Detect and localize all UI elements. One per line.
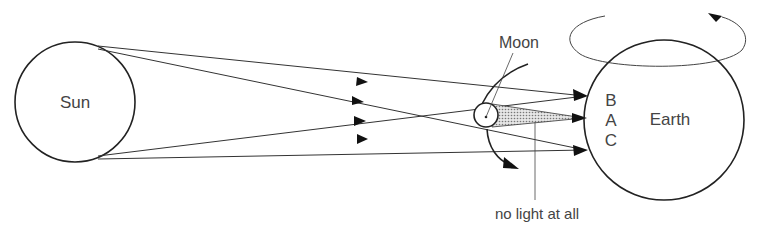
light-rays: [98, 46, 585, 159]
sun: Sun: [15, 42, 135, 162]
earth-rotation-ring: [570, 16, 746, 66]
sun-label: Sun: [60, 93, 90, 112]
earth-rotation-arrowhead: [708, 13, 722, 22]
point-b-label: B: [605, 91, 616, 110]
umbra-note: no light at all: [495, 205, 579, 222]
umbra-shadow: [492, 104, 584, 127]
eclipse-diagram: Sun Moon no light at all Earth: [0, 0, 769, 236]
point-a-label: A: [605, 111, 617, 130]
earth-label: Earth: [650, 110, 691, 129]
point-c-label: C: [605, 131, 617, 150]
moon-label: Moon: [499, 34, 539, 51]
moon-orbit-arrowhead: [503, 157, 519, 169]
earth: Earth B A C: [584, 40, 744, 200]
